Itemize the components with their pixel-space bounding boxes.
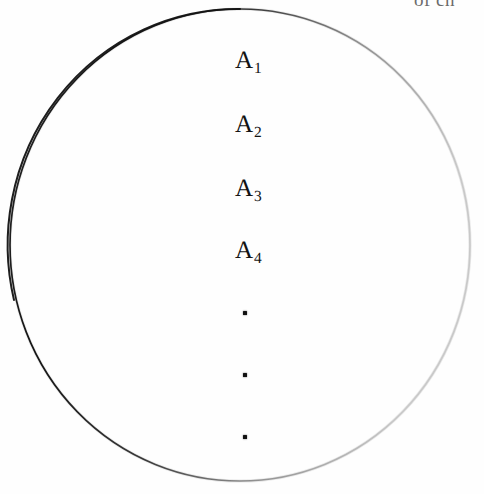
set-label-a4-subscript: 4 [254, 250, 262, 267]
ellipsis-dot-2 [243, 373, 247, 377]
set-label-a3-base: A [235, 175, 253, 202]
set-circle-dark-arc [8, 9, 240, 300]
ellipsis-dot-3 [243, 435, 247, 439]
set-label-a1: A1 [235, 48, 261, 73]
set-label-a2-base: A [235, 111, 253, 138]
set-label-a1-subscript: 1 [254, 60, 262, 77]
set-label-a3: A3 [235, 176, 261, 201]
set-label-a2: A2 [235, 112, 261, 137]
set-label-a4: A4 [235, 238, 261, 263]
set-label-a2-subscript: 2 [254, 124, 262, 141]
ellipsis-dot-1 [243, 311, 247, 315]
set-label-a3-subscript: 3 [254, 188, 262, 205]
set-label-a4-base: A [235, 237, 253, 264]
figure-canvas: of ch A1 A2 A3 A4 [0, 0, 484, 494]
set-label-a1-base: A [235, 47, 253, 74]
